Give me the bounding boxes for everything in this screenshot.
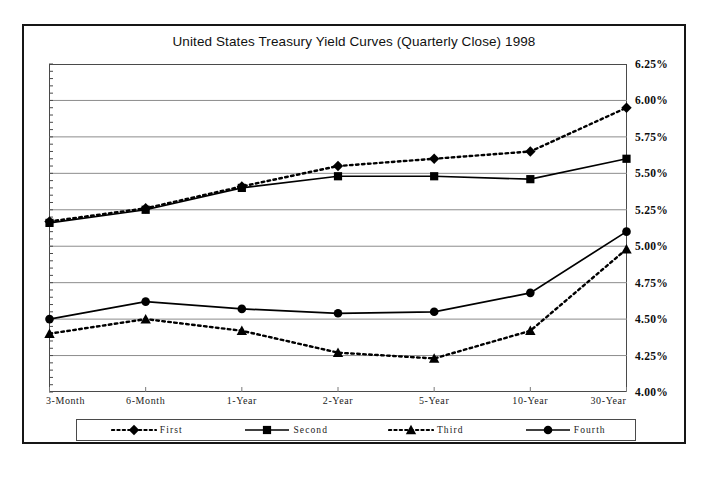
data-point-marker (525, 146, 535, 156)
y-axis-tick-label: 5.75% (635, 131, 668, 143)
data-point-marker (238, 305, 247, 314)
data-point-marker (334, 172, 342, 180)
data-point-marker (263, 426, 271, 434)
data-point-marker (141, 297, 150, 306)
chart-legend: FirstSecondThirdFourth (76, 419, 636, 441)
x-axis-tick-label: 6-Month (126, 395, 165, 406)
y-axis-tick-label: 4.50% (635, 313, 668, 325)
legend-swatch-square-icon (244, 424, 290, 436)
data-point-marker (526, 175, 534, 183)
data-point-marker (140, 314, 150, 323)
series-first (44, 103, 631, 227)
data-point-marker (622, 155, 630, 163)
x-axis-tick-label: 2-Year (323, 395, 353, 406)
data-point-marker (622, 227, 631, 236)
x-axis-tick-label: 1-Year (227, 395, 257, 406)
chart-title: United States Treasury Yield Curves (Qua… (24, 34, 684, 49)
legend-swatch-triangle-icon (388, 424, 434, 436)
legend-label: Fourth (574, 425, 606, 435)
legend-label: First (160, 425, 183, 435)
x-axis-tick-label: 10-Year (512, 395, 548, 406)
data-point-marker (142, 206, 150, 214)
data-point-marker (237, 326, 247, 335)
legend-swatch-diamond-icon (111, 424, 157, 436)
legend-item-third[interactable]: Third (356, 424, 496, 436)
x-axis-tick-label: 5-Year (419, 395, 449, 406)
data-point-marker (45, 315, 54, 324)
x-axis-tick-label: 3-Month (46, 395, 85, 406)
data-point-marker (333, 161, 343, 171)
data-point-marker (238, 184, 246, 192)
data-point-marker (621, 103, 631, 113)
y-axis-tick-label: 4.00% (635, 386, 668, 398)
series-line (50, 232, 627, 319)
data-point-marker (334, 309, 343, 318)
series-fourth (45, 227, 631, 323)
data-point-marker (526, 289, 535, 298)
y-axis-tick-label: 4.25% (635, 350, 668, 362)
legend-label: Third (437, 425, 464, 435)
data-point-marker (129, 425, 139, 435)
data-point-marker (429, 154, 439, 164)
series-lines (49, 64, 627, 392)
y-axis-tick-label: 5.50% (635, 167, 668, 179)
data-point-marker (621, 244, 631, 253)
legend-item-fourth[interactable]: Fourth (496, 424, 636, 436)
data-point-marker (543, 426, 552, 435)
data-point-marker (430, 172, 438, 180)
legend-label: Second (293, 425, 328, 435)
legend-item-second[interactable]: Second (217, 424, 357, 436)
data-point-marker (430, 308, 439, 317)
x-axis-tick-label: 30-Year (591, 395, 627, 406)
y-axis-tick-label: 5.00% (635, 240, 668, 252)
legend-item-first[interactable]: First (77, 424, 217, 436)
plot-wrapper: 6.25%6.00%5.75%5.50%5.25%5.00%4.75%4.50%… (49, 64, 627, 392)
y-axis-tick-label: 4.75% (635, 277, 668, 289)
y-axis-tick-label: 6.00% (635, 94, 668, 106)
legend-swatch-circle-icon (525, 424, 571, 436)
chart-outer-frame: United States Treasury Yield Curves (Qua… (22, 24, 686, 444)
y-axis-tick-label: 6.25% (635, 58, 668, 70)
y-axis-tick-label: 5.25% (635, 204, 668, 216)
data-point-marker (45, 219, 53, 227)
